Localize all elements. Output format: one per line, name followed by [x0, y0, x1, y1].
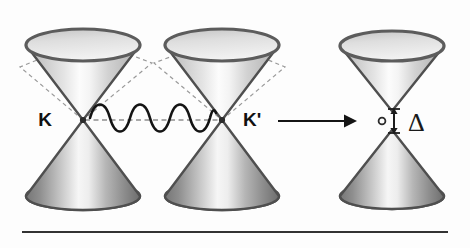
dirac-point-k-prime	[219, 117, 225, 123]
lower-cone-k-prime	[165, 120, 279, 210]
upper-cone-k-prime	[165, 29, 279, 120]
gap-label-delta: Δ	[408, 108, 425, 137]
upper-cone-k	[26, 29, 140, 120]
intervalley-wave	[90, 105, 216, 132]
figure-canvas: K K'	[0, 0, 470, 248]
valley-label-k: K	[38, 109, 52, 130]
gap-circle-marker	[379, 118, 386, 125]
cone-pair-gapped: Δ	[340, 31, 444, 209]
transition-arrow	[278, 115, 357, 128]
gap-measure-arrow	[388, 108, 400, 134]
dirac-cone-figure: Intervalley scattering and band gap open…	[0, 0, 470, 248]
valley-label-k-prime: K'	[243, 109, 261, 130]
dirac-point-k	[80, 117, 86, 123]
lower-cone-k	[26, 120, 140, 210]
lower-cone-gapped	[340, 130, 444, 209]
upper-cone-gapped	[340, 31, 444, 111]
